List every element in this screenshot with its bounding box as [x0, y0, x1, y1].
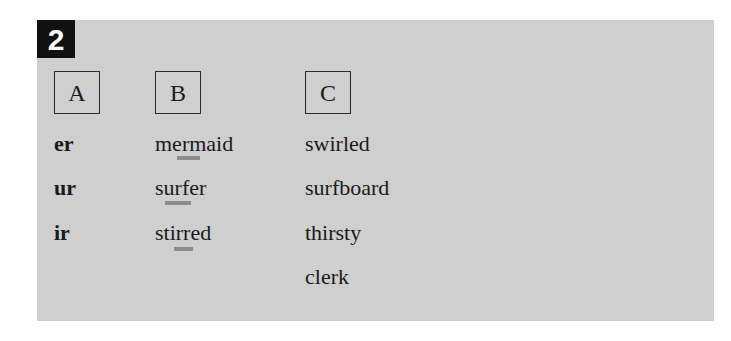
- column-a-header: A: [54, 71, 100, 114]
- example-word-stirred: stirred: [155, 222, 211, 244]
- practice-word-clerk: clerk: [305, 266, 349, 288]
- pattern-ur: ur: [54, 177, 76, 199]
- practice-word-swirled: swirled: [305, 133, 370, 155]
- pattern-er: er: [54, 133, 74, 155]
- underline-mark-ur: [165, 201, 191, 205]
- column-b-header: B: [155, 71, 201, 114]
- exercise-panel: 2 A B C er ur ir mermaid surfer stirred …: [37, 20, 714, 321]
- practice-word-surfboard: surfboard: [305, 177, 389, 199]
- example-word-surfer: surfer: [155, 177, 206, 199]
- exercise-number-badge: 2: [37, 20, 75, 58]
- practice-word-thirsty: thirsty: [305, 222, 361, 244]
- underline-mark-ir: [174, 247, 193, 251]
- example-word-mermaid: mermaid: [155, 133, 233, 155]
- pattern-ir: ir: [54, 222, 70, 244]
- underline-mark-er: [177, 156, 200, 160]
- column-c-header: C: [305, 71, 351, 114]
